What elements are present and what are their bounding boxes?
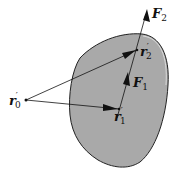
point-r2 [136,49,139,52]
force-f2-arrow [143,9,150,22]
diagram-canvas: r′0 r′1 r′2 F1 F2 [0,0,179,187]
point-r0 [25,99,28,102]
rigid-body [69,34,168,167]
label-r0: r′0 [9,91,21,110]
label-f2: F2 [151,6,167,23]
